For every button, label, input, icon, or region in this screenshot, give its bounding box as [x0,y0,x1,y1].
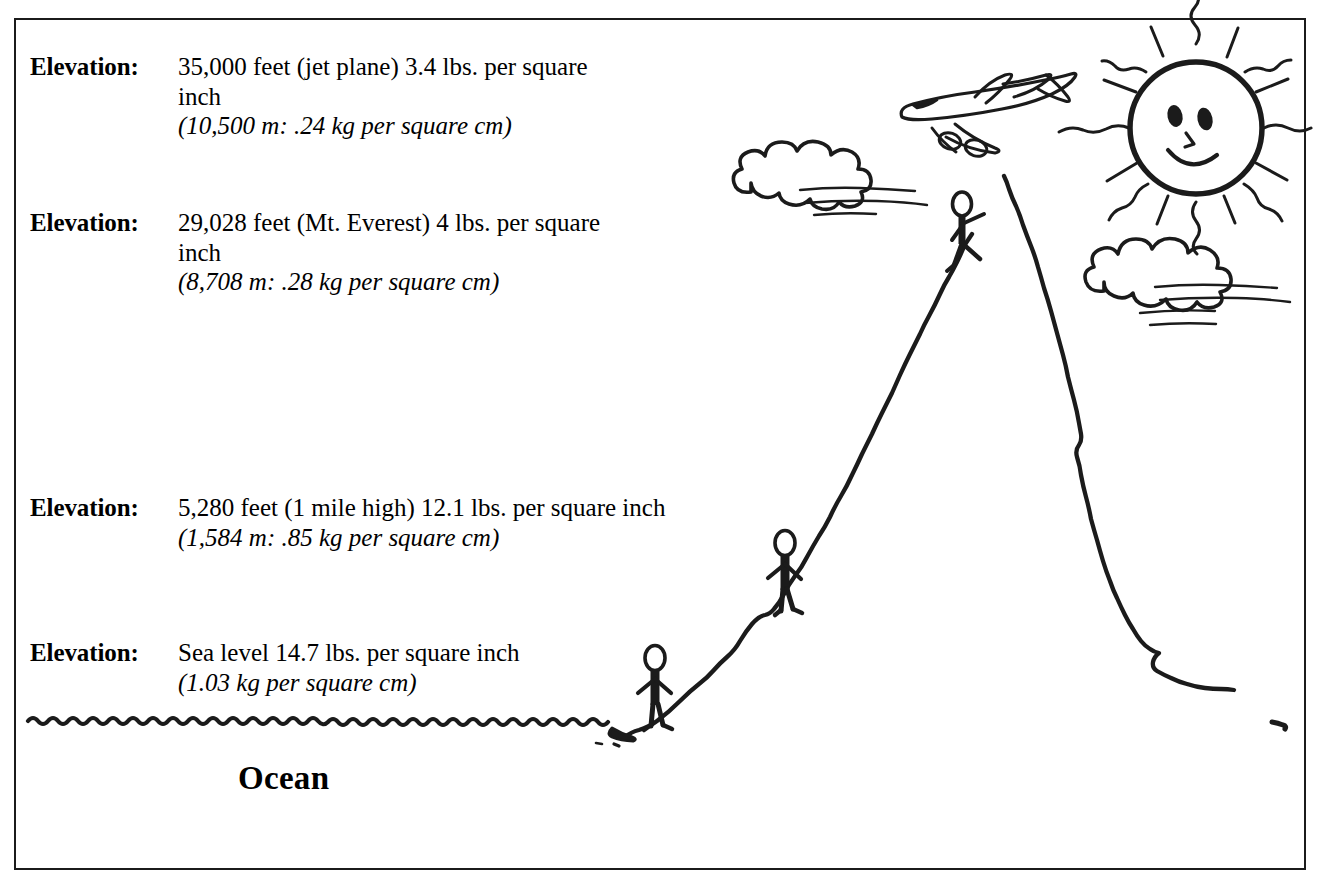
elevation-values: 5,280 feet (1 mile high) 12.1 lbs. per s… [178,493,718,552]
elevation-entry-one-mile-high: Elevation: 5,280 feet (1 mile high) 12.1… [30,493,570,523]
figure-border [14,18,1306,870]
elevation-values: Sea level 14.7 lbs. per square inch (1.0… [178,638,520,697]
elevation-label: Elevation: [30,494,139,521]
elevation-metric-value: (1,584 m: .85 kg per square cm) [178,523,718,553]
ocean-label: Ocean [238,760,329,797]
elevation-label: Elevation: [30,53,139,80]
elevation-imperial-value: Sea level 14.7 lbs. per square inch [178,638,520,668]
elevation-label: Elevation: [30,639,139,666]
elevation-entry-jet-plane: Elevation: 35,000 feet (jet plane) 3.4 l… [30,52,630,82]
elevation-label: Elevation: [30,209,139,236]
elevation-metric-value: (1.03 kg per square cm) [178,668,520,698]
elevation-pressure-figure: Elevation: 35,000 feet (jet plane) 3.4 l… [0,0,1319,885]
elevation-metric-value: (10,500 m: .24 kg per square cm) [178,111,630,141]
elevation-imperial-value: 5,280 feet (1 mile high) 12.1 lbs. per s… [178,493,718,523]
elevation-values: 35,000 feet (jet plane) 3.4 lbs. per squ… [178,52,630,141]
elevation-imperial-value: 35,000 feet (jet plane) 3.4 lbs. per squ… [178,52,630,111]
elevation-imperial-value: 29,028 feet (Mt. Everest) 4 lbs. per squ… [178,208,630,267]
elevation-entry-everest: Elevation: 29,028 feet (Mt. Everest) 4 l… [30,208,630,238]
elevation-metric-value: (8,708 m: .28 kg per square cm) [178,267,630,297]
elevation-values: 29,028 feet (Mt. Everest) 4 lbs. per squ… [178,208,630,297]
elevation-entry-sea-level: Elevation: Sea level 14.7 lbs. per squar… [30,638,630,668]
